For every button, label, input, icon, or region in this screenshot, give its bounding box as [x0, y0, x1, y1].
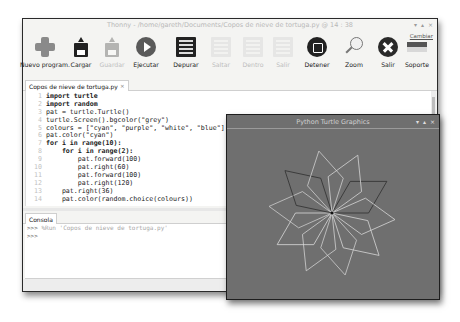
step-out-icon: [273, 37, 293, 57]
zoom-icon: [344, 37, 364, 57]
editor-tab-bar: Copos de nieve de tortuga.py ×: [23, 79, 437, 91]
turtle-graphics-window: Python Turtle Graphics ▾ ▴ ×: [226, 114, 440, 300]
close-icon[interactable]: ×: [428, 21, 433, 29]
turtle-title-bar[interactable]: Python Turtle Graphics: [227, 115, 439, 129]
load-icon: [71, 37, 91, 57]
run-button[interactable]: Ejecutar: [126, 33, 166, 77]
step-into-icon: [243, 37, 263, 57]
minimize-icon[interactable]: ▾: [414, 21, 417, 29]
debug-icon: [176, 37, 196, 57]
line-numbers: 1 2 3 4 5 6 7 8 9 10 11 12 13 14: [26, 93, 42, 203]
new-file-icon: [35, 37, 55, 57]
tab-consola[interactable]: Consola: [25, 213, 57, 224]
stop-button[interactable]: Detener: [297, 33, 337, 77]
quit-icon: [378, 37, 398, 57]
turtle-canvas[interactable]: [228, 130, 438, 298]
close-icon[interactable]: ×: [430, 118, 435, 126]
stop-icon: [307, 37, 327, 57]
code-line: import turtle: [46, 93, 431, 101]
window-controls: ▾ ▴ ×: [414, 21, 433, 29]
step-over-icon: [211, 37, 231, 57]
maximize-icon[interactable]: ▴: [423, 118, 426, 126]
new-program-button[interactable]: Nuevo program.: [25, 33, 65, 77]
window-title: Thonny - /home/gareth/Documents/Copos de…: [107, 21, 353, 29]
run-icon: [136, 37, 156, 57]
turtle-window-controls: ▾ ▴ ×: [416, 118, 435, 126]
save-icon: [102, 37, 122, 57]
maximize-icon[interactable]: ▴: [421, 21, 424, 29]
support-flag-icon: [407, 37, 427, 57]
switch-mode-link[interactable]: Cambiar: [410, 33, 433, 39]
minimize-icon[interactable]: ▾: [416, 118, 419, 126]
tab-close-icon[interactable]: ×: [120, 83, 125, 89]
title-bar[interactable]: Thonny - /home/gareth/Documents/Copos de…: [23, 19, 437, 31]
support-button[interactable]: Soporte: [397, 33, 437, 77]
turtle-window-title: Python Turtle Graphics: [296, 118, 370, 126]
debug-button[interactable]: Depurar: [166, 33, 206, 77]
snowflake-drawing: [228, 130, 438, 298]
toolbar: Nuevo program. Cargar Guardar Ejecutar D…: [23, 33, 437, 77]
tab-copos-de-nieve[interactable]: Copos de nieve de tortuga.py ×: [25, 80, 129, 91]
